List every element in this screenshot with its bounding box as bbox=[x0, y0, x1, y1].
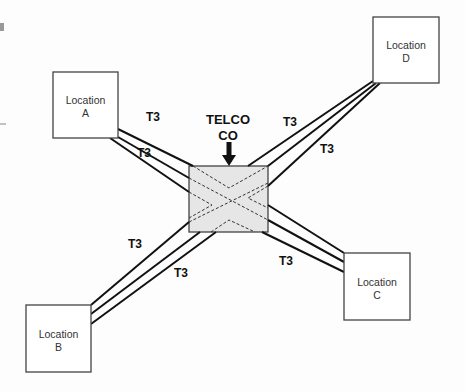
t3-label-a-upper: T3 bbox=[146, 110, 160, 124]
location-c-label: Location bbox=[357, 276, 397, 288]
location-d-label: Location bbox=[386, 39, 426, 51]
network-diagram: Location A Location D Location C Locatio… bbox=[0, 0, 465, 392]
location-a-id: A bbox=[82, 107, 89, 119]
t3-label-d-lower: T3 bbox=[320, 142, 334, 156]
t3-label-b-upper: T3 bbox=[128, 237, 142, 251]
links-c bbox=[262, 205, 344, 272]
location-c-id: C bbox=[373, 289, 381, 301]
location-d-id: D bbox=[402, 52, 410, 64]
location-b: Location B bbox=[26, 305, 91, 372]
location-c: Location C bbox=[344, 253, 410, 320]
t3-label-d-upper: T3 bbox=[283, 115, 297, 129]
co-label: CO bbox=[218, 128, 238, 143]
telco-label: TELCO bbox=[206, 112, 250, 127]
links-b bbox=[91, 222, 216, 324]
location-b-id: B bbox=[55, 341, 62, 353]
location-b-label: Location bbox=[39, 328, 79, 340]
t3-label-b-lower: T3 bbox=[174, 266, 188, 280]
location-d: Location D bbox=[373, 17, 439, 83]
t3-label-c: T3 bbox=[279, 254, 293, 268]
links-a bbox=[110, 129, 193, 192]
location-a: Location A bbox=[53, 72, 118, 138]
down-arrow-icon bbox=[222, 142, 236, 166]
edge-artifact bbox=[0, 23, 4, 31]
t3-label-a-lower: T3 bbox=[137, 146, 151, 160]
location-a-label: Location bbox=[66, 94, 106, 106]
telco-co-box bbox=[189, 166, 268, 232]
